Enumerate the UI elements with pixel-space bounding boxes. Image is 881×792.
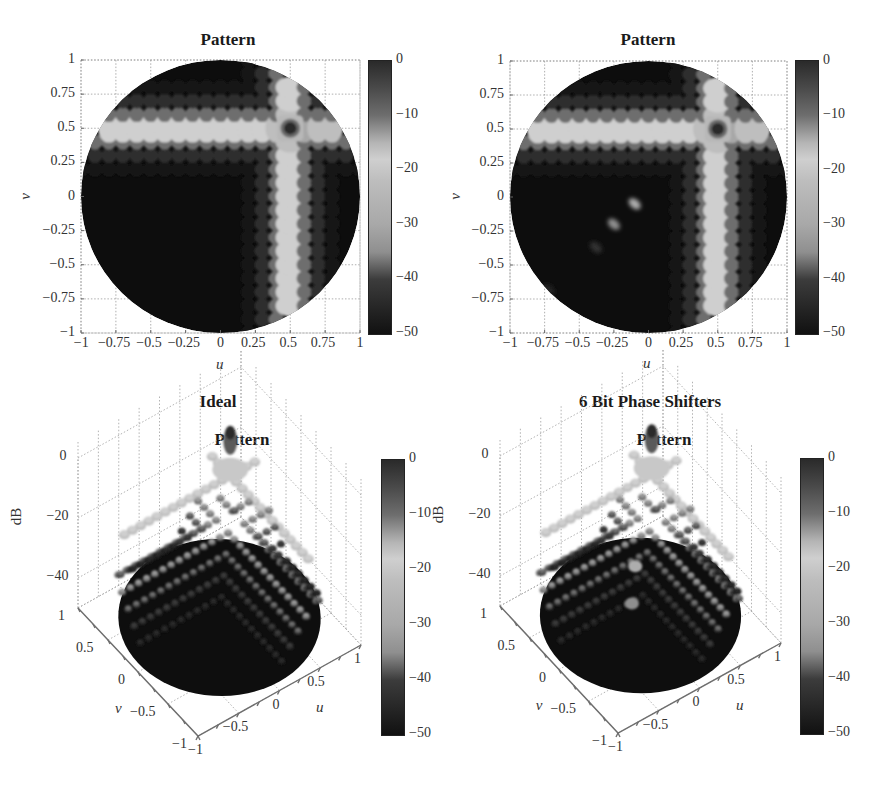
x-tick-label: 1 — [783, 335, 790, 351]
x-tick-label: −0.75 — [527, 335, 559, 351]
colorbar-tick-label: 0 — [409, 450, 416, 466]
x-tick-label: 0.75 — [738, 335, 763, 351]
colorbar-tick-label: −30 — [409, 615, 431, 631]
u-axis-label: u — [736, 697, 744, 714]
colorbar-tick-label: −20 — [823, 161, 845, 177]
u-tick-label: −1 — [608, 739, 623, 755]
colorbar-tick-label: −50 — [823, 324, 845, 340]
x-tick-label: −1 — [503, 335, 518, 351]
colorbar-tick-label: −10 — [823, 106, 845, 122]
u-tick-label: 1 — [354, 651, 361, 667]
z-tick-label: −20 — [469, 506, 491, 522]
colorbar-tick-label: 0 — [396, 51, 403, 67]
colorbar-tick-label: −40 — [828, 669, 850, 685]
z-axis-label: dB — [430, 506, 447, 524]
x-tick-label: 0 — [217, 335, 224, 351]
y-tick-label: 0.25 — [462, 154, 504, 170]
v-tick-label: 0 — [539, 670, 546, 686]
colorbar — [368, 60, 392, 335]
y-tick-label: −1 — [462, 324, 504, 340]
panel-bottom-right-surface: 6 Bit Phase Shifters Pattern 0−10−20−30−… — [440, 380, 881, 792]
u-tick-label: 1 — [774, 649, 781, 665]
u-tick-label: 0 — [273, 697, 280, 713]
v-axis-label: v — [536, 697, 543, 714]
colorbar — [381, 459, 405, 736]
x-tick-label: 0 — [645, 335, 652, 351]
v-tick-label: 0 — [118, 672, 125, 688]
v-tick-label: 1 — [480, 606, 487, 622]
z-tick-label: −40 — [469, 566, 491, 582]
z-tick-label: −40 — [47, 568, 69, 584]
y-tick-label: 0 — [462, 188, 504, 204]
colorbar-tick-label: −20 — [409, 560, 431, 576]
y-tick-label: 0.75 — [33, 85, 75, 101]
y-tick-label: 0.5 — [33, 119, 75, 135]
y-tick-label: −0.25 — [462, 222, 504, 238]
colorbar-tick-label: 0 — [823, 52, 830, 68]
colorbar-tick-label: −40 — [409, 670, 431, 686]
v-tick-label: −1 — [592, 733, 607, 749]
colorbar — [795, 60, 819, 335]
u-tick-label: 0.5 — [727, 672, 745, 688]
panel-bottom-left-surface: Ideal Pattern 0−10−20−30−40−50 −1−0.500.… — [0, 380, 440, 792]
y-tick-label: 1 — [33, 51, 75, 67]
x-tick-label: 0.75 — [311, 335, 336, 351]
x-tick-label: −0.25 — [168, 335, 200, 351]
colorbar-tick-label: −30 — [823, 215, 845, 231]
colorbar-tick-label: −40 — [823, 270, 845, 286]
colorbar-tick-label: −20 — [828, 559, 850, 575]
z-tick-label: 0 — [60, 448, 67, 464]
x-tick-label: 0.25 — [669, 335, 694, 351]
y-tick-label: 0.25 — [33, 153, 75, 169]
y-axis-label: v — [447, 193, 464, 200]
surface-plot — [0, 380, 440, 792]
panel-top-right-heatmap: Pattern 0−10−20−30−40−50 −1−0.75−0.5−0.2… — [440, 0, 881, 380]
y-tick-label: 0.5 — [462, 120, 504, 136]
v-axis-label: v — [115, 700, 122, 717]
y-tick-label: −0.25 — [33, 222, 75, 238]
colorbar-tick-label: −20 — [396, 160, 418, 176]
y-tick-label: 0 — [33, 188, 75, 204]
x-tick-label: −0.5 — [565, 335, 590, 351]
x-tick-label: −0.25 — [596, 335, 628, 351]
x-tick-label: −0.5 — [136, 335, 161, 351]
x-tick-label: 1 — [356, 335, 363, 351]
u-axis-label: u — [316, 699, 324, 716]
y-tick-label: −0.5 — [33, 256, 75, 272]
colorbar — [800, 458, 824, 735]
z-tick-label: 0 — [482, 446, 489, 462]
v-tick-label: −0.5 — [130, 704, 155, 720]
x-tick-label: 0.25 — [241, 335, 266, 351]
colorbar-tick-label: −10 — [828, 504, 850, 520]
z-tick-label: −20 — [47, 508, 69, 524]
colorbar-tick-label: −10 — [409, 505, 431, 521]
panel-top-left-heatmap: Pattern 0−10−20−30−40−50 −1−0.75−0.5−0.2… — [0, 0, 440, 380]
x-tick-label: 0.5 — [279, 335, 297, 351]
y-tick-label: 1 — [462, 52, 504, 68]
u-tick-label: −0.5 — [223, 719, 248, 735]
y-tick-label: −1 — [33, 324, 75, 340]
x-axis-label: u — [643, 355, 651, 372]
v-tick-label: 0.5 — [498, 638, 516, 654]
v-tick-label: −1 — [172, 736, 187, 752]
u-tick-label: 0.5 — [307, 674, 325, 690]
y-tick-label: −0.75 — [33, 290, 75, 306]
colorbar-tick-label: −50 — [828, 724, 850, 740]
colorbar-tick-label: 0 — [828, 449, 835, 465]
y-tick-label: −0.5 — [462, 256, 504, 272]
u-tick-label: −1 — [188, 742, 203, 758]
v-tick-label: 1 — [58, 608, 65, 624]
colorbar-tick-label: −30 — [396, 215, 418, 231]
y-axis-label: v — [17, 193, 34, 200]
z-axis-label: dB — [8, 508, 25, 526]
u-tick-label: 0 — [693, 694, 700, 710]
x-axis-label: u — [216, 356, 224, 373]
x-tick-label: −1 — [74, 335, 89, 351]
y-tick-label: 0.75 — [462, 86, 504, 102]
colorbar-tick-label: −30 — [828, 614, 850, 630]
u-tick-label: −0.5 — [643, 717, 668, 733]
v-tick-label: 0.5 — [76, 640, 94, 656]
x-tick-label: −0.75 — [98, 335, 130, 351]
x-tick-label: 0.5 — [707, 335, 725, 351]
v-tick-label: −0.5 — [551, 701, 576, 717]
